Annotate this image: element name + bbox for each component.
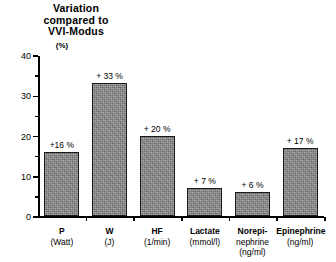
bar-value-label: + 7 %	[194, 176, 216, 186]
category-label-epinephrine: Epinephrine(ng/ml)	[276, 226, 324, 247]
y-tick-20	[33, 136, 38, 138]
x-tick-4	[276, 217, 278, 221]
x-tick-2	[181, 217, 183, 221]
bar-epinephrine: + 17 %	[283, 148, 318, 216]
category-unit: (ng/ml)	[229, 247, 277, 258]
y-minor-tick-5	[35, 196, 38, 198]
chart-title-line-3: VVI-Modus	[6, 26, 146, 38]
category-unit: nephrine	[229, 237, 277, 248]
bar-p: +16 %	[44, 152, 79, 216]
category-unit: (Watt)	[38, 237, 86, 248]
x-tick-1	[133, 217, 135, 221]
category-name: P	[38, 226, 86, 237]
y-tick-0	[33, 216, 38, 218]
plot-area: 010203040 +16 %+ 33 %+ 20 %+ 7 %+ 6 %+ 1…	[38, 56, 324, 217]
bar-value-label: + 20 %	[144, 124, 171, 134]
category-label-w: W(J)	[86, 226, 134, 247]
bar-norepinephrine: + 6 %	[235, 192, 270, 216]
y-minor-tick-25	[35, 116, 38, 118]
chart-title-line-1: Variation	[6, 3, 146, 15]
bar-w: + 33 %	[92, 83, 127, 216]
y-tick-label-20: 20	[21, 132, 31, 142]
category-name: HF	[133, 226, 181, 237]
category-unit: (J)	[86, 237, 134, 248]
category-label-lactate: Lactate(mmol/l)	[181, 226, 229, 247]
y-axis-unit-label: (%)	[6, 41, 118, 50]
category-unit: (ng/ml)	[276, 237, 324, 248]
bar-value-label: + 6 %	[241, 180, 263, 190]
y-minor-tick-15	[35, 156, 38, 158]
y-tick-10	[33, 176, 38, 178]
y-tick-label-10: 10	[21, 172, 31, 182]
chart-title: Variation compared to VVI-Modus	[6, 3, 146, 38]
bar-lactate: + 7 %	[187, 188, 222, 216]
x-tick-3	[229, 217, 231, 221]
bar-hf: + 20 %	[140, 136, 175, 217]
category-name: Epinephrine	[276, 226, 324, 237]
y-minor-tick-35	[35, 75, 38, 77]
bar-value-label: +16 %	[50, 140, 74, 150]
bar-value-label: + 33 %	[96, 71, 123, 81]
bar-chart: Variation compared to VVI-Modus (%) 0102…	[0, 0, 336, 262]
x-tick-5	[324, 217, 326, 221]
y-tick-30	[33, 96, 38, 98]
category-name: Lactate	[181, 226, 229, 237]
bar-value-label: + 17 %	[287, 136, 314, 146]
y-tick-40	[33, 55, 38, 57]
category-unit: (mmol/l)	[181, 237, 229, 248]
x-tick-0	[86, 217, 88, 221]
category-label-p: P(Watt)	[38, 226, 86, 247]
y-tick-label-40: 40	[21, 51, 31, 61]
category-label-hf: HF(1/min)	[133, 226, 181, 247]
y-tick-label-30: 30	[21, 91, 31, 101]
category-name: Norepi-	[229, 226, 277, 237]
category-name: W	[86, 226, 134, 237]
category-unit: (1/min)	[133, 237, 181, 248]
y-tick-label-0: 0	[26, 212, 31, 222]
y-axis-line	[38, 56, 40, 217]
category-label-norepinephrine: Norepi-nephrine(ng/ml)	[229, 226, 277, 258]
